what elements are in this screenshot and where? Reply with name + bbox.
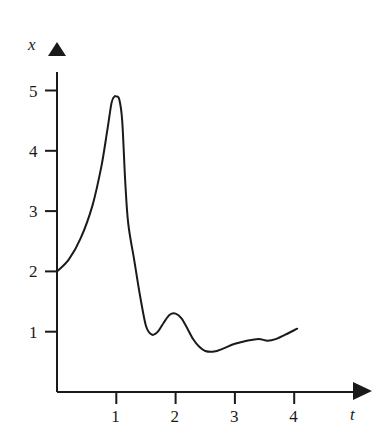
y-tick-label: 2 [29, 262, 38, 281]
y-tick-label: 3 [29, 202, 38, 221]
x-tick-label: 2 [171, 407, 180, 426]
x-tick-label: 4 [289, 407, 298, 426]
y-tick-label: 5 [29, 82, 38, 101]
y-axis-arrow-icon [48, 42, 66, 56]
y-tick-label: 4 [29, 142, 38, 161]
line-chart: 12345 1234 x t [0, 0, 387, 443]
x-ticks: 1234 [111, 392, 298, 426]
x-tick-label: 3 [230, 407, 239, 426]
x-axis-label: t [350, 405, 356, 424]
y-axis-label: x [27, 35, 36, 54]
data-line [57, 96, 297, 352]
x-axis-arrow-icon [353, 382, 372, 400]
y-ticks: 12345 [29, 82, 57, 342]
y-tick-label: 1 [29, 323, 38, 342]
axes [48, 42, 372, 400]
x-tick-label: 1 [111, 407, 120, 426]
